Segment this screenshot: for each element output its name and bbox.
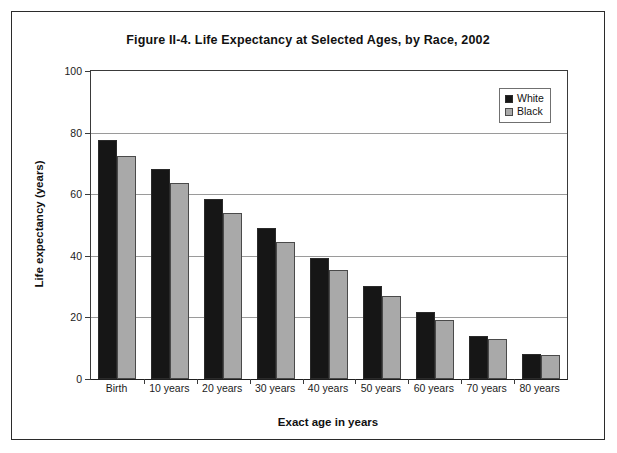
bar-group-10-years [144, 71, 197, 379]
bar-white-5 [363, 286, 382, 379]
bar-group-60-years [408, 71, 461, 379]
x-axis-title: Exact age in years [90, 416, 566, 428]
x-axis-tick-label: 60 years [407, 382, 460, 394]
chart-title: Figure II-4. Life Expectancy at Selected… [12, 33, 604, 47]
bar-group-50-years [355, 71, 408, 379]
bar-white-4 [310, 258, 329, 379]
legend-item-black: Black [505, 105, 544, 118]
x-axis-tick-label: 40 years [302, 382, 355, 394]
plot-area: 020406080100 [90, 70, 568, 380]
legend-swatch-white [505, 95, 513, 103]
bar-black-7 [488, 339, 507, 379]
y-axis-tick-label: 60 [70, 188, 82, 200]
x-axis-tick-label: Birth [90, 382, 143, 394]
bar-white-6 [416, 312, 435, 379]
bar-group-20-years [197, 71, 250, 379]
x-axis-tick-label: 20 years [196, 382, 249, 394]
bar-black-6 [435, 320, 454, 379]
x-axis-tick-label: 80 years [513, 382, 566, 394]
x-axis-tick-label: 10 years [143, 382, 196, 394]
legend-item-white: White [505, 92, 544, 105]
bar-white-7 [469, 336, 488, 379]
bar-series-layer [91, 71, 567, 379]
bar-group-birth [91, 71, 144, 379]
y-axis-tick-label: 40 [70, 250, 82, 262]
bar-group-40-years [303, 71, 356, 379]
bar-black-4 [329, 270, 348, 379]
legend-label: White [517, 92, 544, 105]
x-axis-tick-label: 30 years [249, 382, 302, 394]
bar-black-1 [170, 183, 189, 379]
y-axis-tick-label: 100 [64, 65, 82, 77]
figure-frame: Figure II-4. Life Expectancy at Selected… [11, 11, 605, 440]
bar-black-2 [223, 213, 242, 379]
x-axis-tick-labels: Birth10 years20 years30 years40 years50 … [90, 382, 566, 394]
x-axis-tick-label: 50 years [354, 382, 407, 394]
y-axis-tick-label: 0 [76, 373, 82, 385]
bar-white-3 [257, 228, 276, 379]
bar-black-3 [276, 242, 295, 379]
y-axis-tick-label: 80 [70, 127, 82, 139]
y-axis-tick-label: 20 [70, 311, 82, 323]
bar-white-2 [204, 199, 223, 379]
y-axis-title-label: Life expectancy (years) [33, 160, 45, 287]
bar-white-8 [522, 354, 541, 379]
y-axis-title: Life expectancy (years) [31, 70, 47, 378]
bar-group-30-years [250, 71, 303, 379]
bar-white-0 [98, 140, 117, 379]
legend-swatch-black [505, 108, 513, 116]
legend-label: Black [517, 105, 543, 118]
bar-black-5 [382, 296, 401, 379]
bar-white-1 [151, 169, 170, 379]
bar-black-0 [117, 156, 136, 379]
chart-legend: WhiteBlack [499, 88, 551, 123]
bar-black-8 [541, 355, 560, 379]
y-axis-tick [85, 379, 91, 380]
x-axis-tick-label: 70 years [460, 382, 513, 394]
